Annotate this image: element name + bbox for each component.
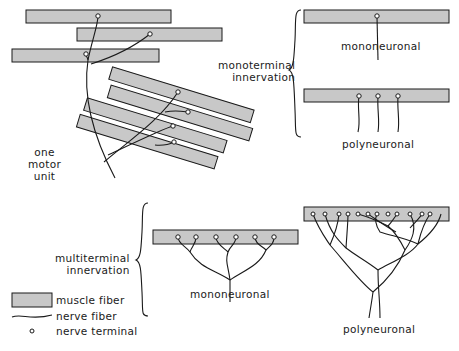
- multiterminal-label: multiterminal innervation: [55, 252, 130, 276]
- monoterminal-mononeuronal-label: mononeuronal: [341, 40, 421, 52]
- legend-nerve-fiber-label: nerve fiber: [56, 310, 117, 322]
- legend-nerve-terminal-label: nerve terminal: [56, 325, 138, 337]
- multiterminal-mononeuronal-label: mononeuronal: [190, 288, 270, 300]
- legend-muscle-fiber: [12, 293, 52, 307]
- monoterminal-polyneuronal-label: polyneuronal: [342, 138, 414, 150]
- motor-unit-label: one motor unit: [28, 146, 61, 182]
- monoterminal-label: monoterminal innervation: [218, 59, 295, 83]
- legend-muscle-fiber-label: muscle fiber: [56, 294, 125, 306]
- multiterminal-polyneuronal-label: polyneuronal: [343, 323, 415, 335]
